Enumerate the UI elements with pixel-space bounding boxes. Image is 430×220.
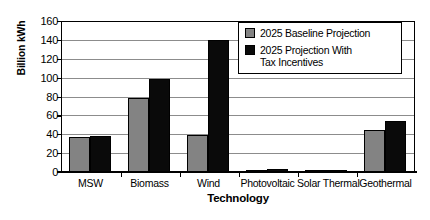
bar [69, 137, 90, 172]
x-axis-category-label: Photovoltaic [238, 176, 297, 190]
bar [385, 121, 406, 172]
legend-item-baseline: 2025 Baseline Projection [245, 27, 396, 39]
legend-label-incentives: 2025 Projection With Tax Incentives [260, 44, 352, 68]
x-axis-category-label: Geothermal [356, 176, 415, 190]
legend-label-baseline-line1: 2025 Baseline Projection [260, 27, 370, 39]
chart-legend: 2025 Baseline Projection 2025 Projection… [238, 22, 402, 74]
x-axis-title: Technology [61, 192, 415, 204]
bar-chart-figure: Billion kWh 020406080100120140160 MSWBio… [0, 0, 430, 220]
bar [149, 79, 170, 172]
legend-label-baseline: 2025 Baseline Projection [260, 27, 370, 39]
x-axis-category-label: Wind [179, 176, 238, 190]
y-axis-tick-label: 60 [26, 109, 58, 121]
bar-group [180, 21, 239, 172]
legend-label-incentives-line2: Tax Incentives [260, 56, 323, 68]
y-axis-tick-label: 120 [26, 53, 58, 65]
legend-swatch-baseline-icon [245, 28, 255, 38]
bar-group [62, 21, 121, 172]
bar [90, 136, 111, 172]
legend-item-incentives: 2025 Projection With Tax Incentives [245, 44, 396, 68]
x-axis-category-label: Biomass [120, 176, 179, 190]
y-axis-tick-label: 140 [26, 34, 58, 46]
y-axis-tick-label: 20 [26, 147, 58, 159]
bar-group [121, 21, 180, 172]
y-axis-tick-label: 160 [26, 15, 58, 27]
y-axis-tick-labels: 020406080100120140160 [26, 15, 58, 179]
y-axis-tick-label: 40 [26, 128, 58, 140]
x-axis-category-label: Solar Thermal [297, 176, 356, 190]
legend-label-incentives-line1: 2025 Projection With [260, 44, 352, 56]
bar [208, 40, 229, 172]
y-axis-tick-label: 100 [26, 72, 58, 84]
bar [187, 135, 208, 172]
y-axis-tick-label: 0 [26, 166, 58, 178]
bar [364, 130, 385, 172]
y-axis-tick-label: 80 [26, 91, 58, 103]
x-axis-line [57, 171, 417, 173]
legend-swatch-incentives-icon [245, 45, 255, 55]
bar [128, 98, 149, 172]
x-axis-category-label: MSW [61, 176, 120, 190]
x-axis-tick-labels: MSWBiomassWindPhotovoltaicSolar ThermalG… [61, 176, 415, 191]
